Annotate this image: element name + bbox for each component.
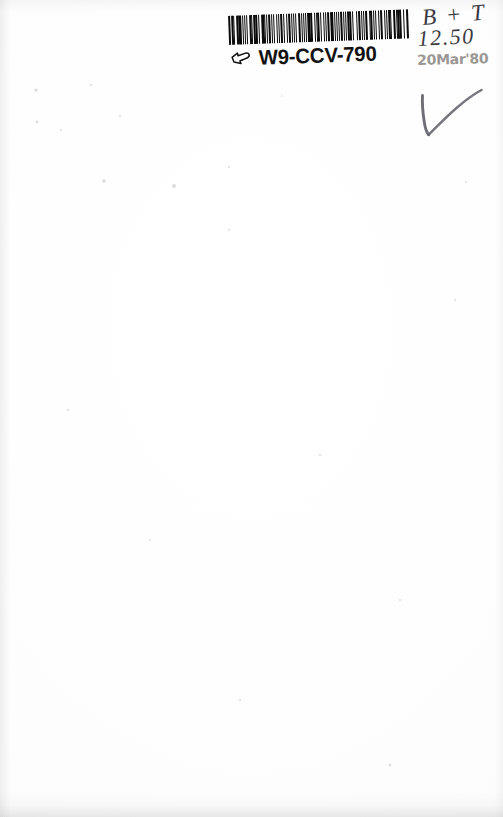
barcode-label: W9-CCV-790 (226, 7, 412, 76)
scan-edge-bottom (0, 791, 503, 817)
date-stamp: 20Mar'80 (417, 50, 489, 68)
barcode-bars (228, 9, 409, 45)
barcode-code-text: W9-CCV-790 (258, 42, 377, 70)
scan-edge-top (0, 0, 503, 12)
pointing-hand-icon (230, 47, 253, 68)
scan-edge-left (0, 0, 10, 817)
scan-edge-right (495, 0, 503, 817)
pencil-checkmark (412, 88, 488, 144)
handwritten-price: 12.50 (417, 23, 475, 52)
scanned-page: W9-CCV-790 B + T 12.50 20Mar'80 (0, 0, 503, 817)
